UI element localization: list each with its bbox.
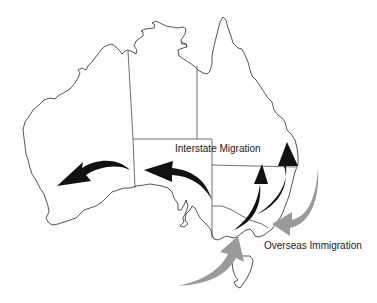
arrow-overseas-to-vic — [178, 236, 244, 286]
interstate-migration-label: Interstate Migration — [175, 143, 261, 154]
australia-migration-map: Interstate Migration Overseas Immigratio… — [0, 0, 377, 303]
overseas-immigration-label: Overseas Immigration — [264, 240, 362, 251]
